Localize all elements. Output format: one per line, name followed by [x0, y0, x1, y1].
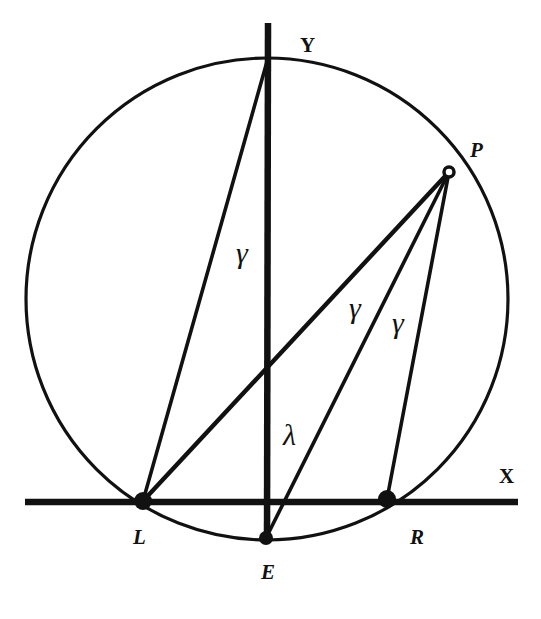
- point-L-marker: [134, 492, 152, 510]
- point-E-marker: [259, 531, 273, 545]
- axis-label-x: X: [499, 466, 514, 487]
- point-R-marker: [378, 490, 396, 508]
- angle-label-gamma-2: γ: [349, 293, 361, 323]
- geometry-canvas: [0, 0, 541, 619]
- axis-y-line: [267, 23, 268, 540]
- point-label-R: R: [410, 527, 424, 548]
- point-P-marker: [444, 167, 454, 177]
- geometry-figure: P L R E Y X γ γ γ λ: [0, 0, 541, 619]
- angle-label-lambda: λ: [283, 420, 296, 450]
- point-label-L: L: [133, 527, 146, 548]
- angle-label-gamma-3: γ: [392, 308, 404, 338]
- point-label-E: E: [261, 562, 275, 583]
- point-label-P: P: [470, 140, 483, 161]
- angle-label-gamma-1: γ: [236, 238, 248, 268]
- axis-label-y: Y: [300, 35, 315, 56]
